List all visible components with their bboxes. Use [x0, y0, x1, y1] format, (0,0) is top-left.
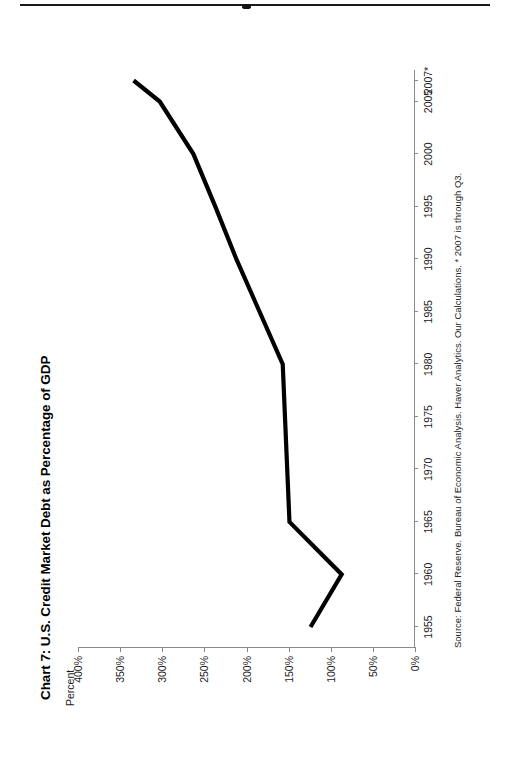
x-tick-mark	[414, 573, 418, 574]
y-tick-mark	[415, 647, 416, 652]
x-tick-mark	[414, 468, 418, 469]
y-tick-mark	[162, 647, 163, 652]
y-tick-mark	[246, 647, 247, 652]
series-line-credit-market-debt	[133, 80, 341, 626]
x-tick-mark	[414, 153, 418, 154]
x-tick-mark	[414, 625, 418, 626]
x-tick-label: 1975	[422, 405, 434, 428]
x-tick-label: 2000	[422, 142, 434, 165]
chart-figure: Chart 7: U.S. Credit Market Debt as Perc…	[20, 34, 490, 734]
y-tick-label: 200%	[240, 656, 252, 683]
y-tick-mark	[78, 647, 79, 652]
x-tick-mark	[414, 100, 418, 101]
x-tick-label: 1995	[422, 194, 434, 217]
line-series-chart	[78, 70, 415, 648]
y-tick-mark	[120, 647, 121, 652]
x-tick-label: 1985	[422, 300, 434, 323]
y-tick-label: 250%	[198, 656, 210, 683]
y-tick-label: 100%	[324, 656, 336, 683]
rotated-page-stage: Chart 7: U.S. Credit Market Debt as Perc…	[0, 0, 509, 767]
y-tick-label: 150%	[282, 656, 294, 683]
x-tick-mark	[414, 520, 418, 521]
x-tick-label: 1990	[422, 247, 434, 270]
x-tick-mark	[414, 79, 418, 80]
page-title: Chart 7: U.S. Credit Market Debt as Perc…	[38, 355, 53, 699]
x-tick-mark	[414, 415, 418, 416]
x-tick-mark	[414, 363, 418, 364]
x-tick-label: 1970	[422, 457, 434, 480]
y-tick-label: 50%	[366, 656, 378, 677]
x-tick-label: 2007*	[422, 66, 434, 93]
y-tick-label: 0%	[409, 656, 421, 671]
x-tick-label: 1955	[422, 615, 434, 638]
x-tick-mark	[414, 205, 418, 206]
x-tick-label: 1960	[422, 562, 434, 585]
y-tick-label: 350%	[114, 656, 126, 683]
y-tick-label: 300%	[156, 656, 168, 683]
x-tick-mark	[414, 258, 418, 259]
y-tick-mark	[288, 647, 289, 652]
x-tick-label: 1965	[422, 510, 434, 533]
source-note: Source: Federal Reserve. Bureau of Econo…	[452, 172, 463, 647]
x-tick-label: 1980	[422, 352, 434, 375]
y-tick-mark	[330, 647, 331, 652]
y-tick-mark	[372, 647, 373, 652]
x-tick-mark	[414, 310, 418, 311]
y-tick-mark	[204, 647, 205, 652]
y-tick-label: 400%	[72, 656, 84, 683]
